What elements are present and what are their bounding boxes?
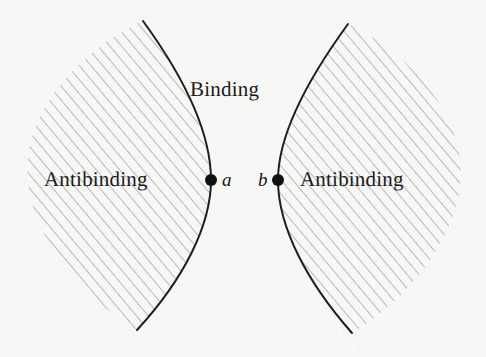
point-a-marker (205, 174, 217, 186)
point-a-label: a (222, 169, 232, 191)
antibinding-left-label: Antibinding (44, 167, 148, 192)
point-b-label: b (258, 169, 268, 191)
antibinding-right-label: Antibinding (300, 167, 404, 192)
binding-region-label: Binding (190, 77, 259, 102)
point-b-marker (272, 174, 284, 186)
figure-root: Binding Antibinding Antibinding a b (0, 0, 486, 357)
